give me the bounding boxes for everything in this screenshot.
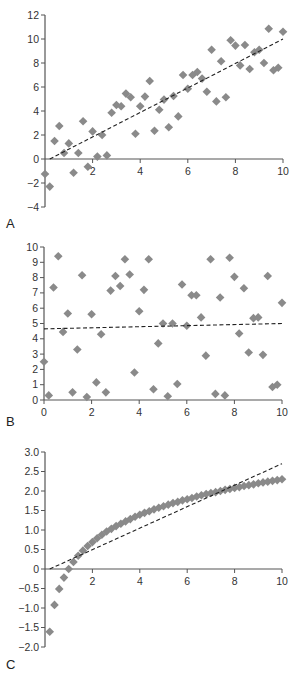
x-tick-label: 4 <box>136 406 142 418</box>
diamond-marker <box>73 345 82 354</box>
y-tick-label: 3 <box>32 348 38 360</box>
diamond-marker <box>235 329 244 338</box>
y-tick-label: 1.0 <box>24 524 39 536</box>
diamond-marker <box>241 41 250 50</box>
diamond-marker <box>203 88 212 97</box>
y-tick-label: −2.0 <box>18 641 39 653</box>
y-tick-label: 2.0 <box>24 485 39 497</box>
data-series <box>41 25 288 191</box>
x-tick-label: 10 <box>276 406 288 418</box>
diamond-marker <box>144 255 153 264</box>
y-tick-label: 9 <box>32 256 38 268</box>
figure: −4−2024681012246810A0123456789100246810B… <box>0 0 291 675</box>
diamond-marker <box>116 282 125 291</box>
y-tick-label: 8 <box>32 271 38 283</box>
diamond-marker <box>107 109 116 118</box>
diamond-marker <box>64 309 73 318</box>
diamond-marker <box>263 272 272 281</box>
diamond-marker <box>74 149 83 158</box>
panel-label: C <box>6 657 15 672</box>
diamond-marker <box>131 130 140 139</box>
y-tick-label: 7 <box>32 286 38 298</box>
diamond-marker <box>221 391 230 400</box>
data-series <box>45 475 286 636</box>
y-tick-label: 4 <box>33 105 39 117</box>
diamond-marker <box>44 391 53 400</box>
diamond-marker <box>88 127 97 136</box>
diamond-marker <box>216 293 225 302</box>
diamond-marker <box>192 291 201 300</box>
diamond-marker <box>92 378 101 387</box>
diamond-marker <box>163 392 172 401</box>
y-tick-label: 1.5 <box>24 504 39 516</box>
diamond-marker <box>211 390 220 399</box>
diamond-marker <box>50 137 59 146</box>
diamond-marker <box>45 627 54 636</box>
y-tick-label: −1.0 <box>18 602 39 614</box>
x-tick-label: 8 <box>231 406 237 418</box>
y-tick-label: −1.5 <box>18 621 39 633</box>
diamond-marker <box>154 339 163 348</box>
x-tick-label: 6 <box>185 165 191 177</box>
y-tick-label: 4 <box>32 332 38 344</box>
diamond-marker <box>278 299 287 308</box>
diamond-marker <box>217 57 226 66</box>
y-tick-label: 12 <box>27 9 39 21</box>
diamond-marker <box>121 255 130 264</box>
diamond-marker <box>225 253 234 262</box>
diamond-marker <box>207 46 216 55</box>
diamond-marker <box>264 25 273 34</box>
diamond-marker <box>69 169 78 178</box>
y-tick-label: 10 <box>27 33 39 45</box>
diamond-marker <box>54 252 63 261</box>
diamond-marker <box>160 95 169 104</box>
x-tick-label: 10 <box>276 575 288 587</box>
diamond-marker <box>55 122 64 131</box>
y-tick-label: 5 <box>32 317 38 329</box>
panel-c: −2.0−1.5−1.0−0.500.51.01.52.02.53.024681… <box>6 446 288 673</box>
diamond-marker <box>60 573 69 582</box>
diamond-marker <box>64 565 73 574</box>
y-tick-label: 8 <box>33 57 39 69</box>
diamond-marker <box>141 92 150 101</box>
diamond-marker <box>93 152 102 161</box>
x-tick-label: 8 <box>232 575 238 587</box>
y-tick-label: −0.5 <box>18 582 39 594</box>
diamond-marker <box>79 117 88 126</box>
y-tick-label: 0 <box>32 394 38 406</box>
diamond-marker <box>230 273 239 282</box>
y-tick-label: 3.0 <box>24 446 39 458</box>
diamond-marker <box>78 271 87 280</box>
x-tick-label: 0 <box>41 406 47 418</box>
diamond-marker <box>136 102 145 111</box>
y-tick-label: 10 <box>26 241 38 253</box>
diamond-marker <box>87 310 96 319</box>
diamond-marker <box>244 348 253 357</box>
x-tick-label: 2 <box>89 575 95 587</box>
y-tick-label: 6 <box>33 81 39 93</box>
diamond-marker <box>174 112 183 121</box>
diamond-marker <box>184 85 193 94</box>
x-tick-label: 4 <box>137 165 143 177</box>
diamond-marker <box>140 286 149 295</box>
diamond-marker <box>164 123 173 132</box>
x-tick-label: 6 <box>184 575 190 587</box>
diamond-marker <box>41 170 50 179</box>
diamond-marker <box>106 286 115 295</box>
x-tick-label: 8 <box>232 165 238 177</box>
y-tick-label: 0 <box>33 563 39 575</box>
diamond-marker <box>245 65 254 74</box>
diamond-marker <box>40 357 49 366</box>
x-tick-label: 10 <box>277 165 289 177</box>
x-tick-label: 6 <box>184 406 190 418</box>
x-tick-label: 4 <box>137 575 143 587</box>
y-tick-label: −4 <box>27 201 39 213</box>
diamond-marker <box>65 139 74 148</box>
diamond-marker <box>222 93 231 102</box>
diamond-marker <box>260 59 269 68</box>
panel-label: A <box>6 216 15 231</box>
diamond-marker <box>240 284 249 293</box>
diamond-marker <box>125 270 134 279</box>
diamond-marker <box>135 307 144 316</box>
diamond-marker <box>169 92 178 101</box>
